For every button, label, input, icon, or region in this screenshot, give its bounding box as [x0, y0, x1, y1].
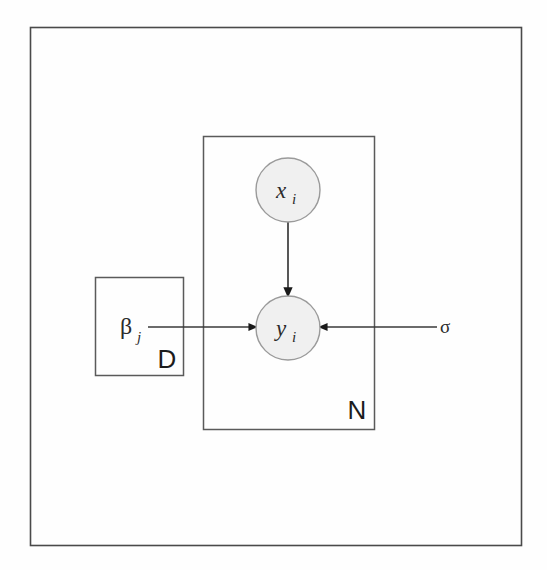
- node-x-i: [256, 158, 320, 222]
- node-x-i-label: x: [275, 178, 287, 203]
- plate-D-label: D: [158, 344, 177, 374]
- node-y-i-label: y: [274, 316, 287, 341]
- plate-diagram: x i y i β j σ N D: [0, 0, 547, 570]
- node-x-i-subscript: i: [292, 191, 296, 207]
- variable-beta-j-label: β: [120, 313, 132, 339]
- plate-N-label: N: [348, 395, 367, 425]
- figure-canvas: x i y i β j σ N D: [0, 0, 547, 570]
- outer-frame: [31, 28, 522, 546]
- node-y-i-subscript: i: [292, 329, 296, 345]
- node-y-i: [256, 296, 320, 360]
- variable-sigma-label: σ: [440, 316, 450, 337]
